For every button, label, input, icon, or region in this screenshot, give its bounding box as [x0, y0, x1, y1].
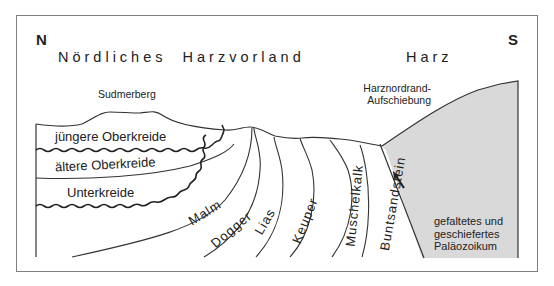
layer-juengere-oberkreide: jüngere Oberkreide — [55, 129, 166, 144]
region-foreland: Nördliches Harzvorland — [58, 49, 305, 65]
layer-unterkreide: Unterkreide — [67, 185, 134, 200]
palaeozoic-label: gefaltetes und geschiefertes Paläozoikum — [434, 215, 503, 253]
north-label: N — [36, 31, 47, 48]
sudmerberg-label: Sudmerberg — [98, 88, 156, 100]
region-harz: Harz — [406, 49, 453, 65]
thrust-label: Harznordrand- Aufschiebung — [331, 82, 431, 106]
palaeozoic-line3: Paläozoikum — [434, 240, 503, 253]
palaeozoic-line1: gefaltetes und — [434, 215, 503, 228]
thrust-label-line2: Aufschiebung — [331, 94, 431, 106]
thrust-label-line1: Harznordrand- — [331, 82, 431, 94]
south-label: S — [508, 31, 518, 48]
palaeozoic-line2: geschiefertes — [434, 228, 503, 241]
